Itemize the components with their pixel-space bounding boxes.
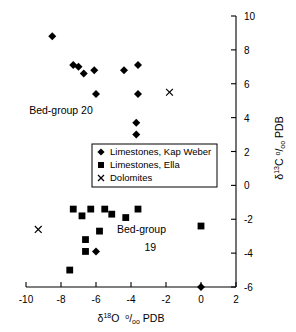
- legend-item[interactable]: Limestones, Kap Weber: [97, 146, 211, 157]
- marker-square: [101, 206, 108, 213]
- x-tick-label: 0: [198, 294, 204, 305]
- marker-square: [98, 162, 104, 168]
- chart-canvas: -10-8-6-4-202 -6-4-20246810 δ18O o/oo PD…: [0, 0, 296, 332]
- x-tick-label: -10: [19, 294, 34, 305]
- series-square: [66, 206, 204, 274]
- x-axis: -10-8-6-4-202: [19, 282, 239, 305]
- y-axis-ticks: [231, 16, 236, 287]
- y-tick-label: 8: [244, 45, 250, 56]
- marker-diamond: [132, 119, 140, 127]
- scatter-chart: -10-8-6-4-202 -6-4-20246810 δ18O o/oo PD…: [0, 0, 296, 332]
- marker-diamond: [80, 70, 88, 78]
- marker-diamond: [92, 90, 100, 98]
- marker-x: [35, 226, 42, 233]
- legend-item-label: Dolomites: [110, 172, 152, 183]
- x-tick-label: -8: [57, 294, 66, 305]
- marker-square: [96, 228, 103, 235]
- annotation-label: 19: [144, 241, 156, 253]
- marker-diamond: [134, 90, 142, 98]
- marker-diamond: [197, 283, 205, 291]
- marker-diamond: [90, 66, 98, 74]
- marker-square: [87, 206, 94, 213]
- x-tick-label: -4: [127, 294, 136, 305]
- marker-diamond: [132, 131, 140, 139]
- legend-item[interactable]: Limestones, Ella: [98, 159, 180, 170]
- annotation-label: Bed-group 20: [29, 104, 93, 116]
- y-axis-tick-labels: -6-4-20246810: [244, 11, 256, 293]
- marker-square: [198, 223, 205, 230]
- y-tick-label: 4: [244, 113, 250, 124]
- marker-diamond: [134, 61, 142, 69]
- x-tick-label: 2: [233, 294, 239, 305]
- marker-diamond: [48, 32, 56, 40]
- y-tick-label: -6: [244, 282, 253, 293]
- y-tick-label: -2: [244, 214, 253, 225]
- legend-item-label: Limestones, Ella: [110, 159, 180, 170]
- marker-diamond: [120, 66, 128, 74]
- marker-square: [122, 214, 129, 221]
- x-axis-ticks: [26, 282, 236, 287]
- marker-diamond: [92, 247, 100, 255]
- marker-square: [79, 212, 86, 219]
- y-tick-label: -4: [244, 248, 253, 259]
- marker-x: [166, 89, 173, 96]
- marker-square: [66, 267, 73, 274]
- y-tick-label: 10: [244, 11, 256, 22]
- legend-item-label: Limestones, Kap Weber: [110, 146, 211, 157]
- marker-square: [70, 206, 77, 213]
- marker-square: [82, 236, 89, 243]
- marker-square: [135, 206, 142, 213]
- x-tick-label: -6: [92, 294, 101, 305]
- x-axis-title: δ18O o/oo PDB: [98, 312, 165, 325]
- y-axis-title: δ13C o/oo PDB: [273, 116, 286, 179]
- marker-square: [108, 211, 115, 218]
- legend: Limestones, Kap WeberLimestones, EllaDol…: [92, 144, 217, 187]
- y-axis: -6-4-20246810: [231, 11, 256, 293]
- marker-square: [82, 248, 89, 255]
- y-tick-label: 2: [244, 147, 250, 158]
- annotation-label: Bed-group: [117, 223, 166, 235]
- y-tick-label: 0: [244, 180, 250, 191]
- y-tick-label: 6: [244, 79, 250, 90]
- x-tick-label: -2: [162, 294, 171, 305]
- x-axis-tick-labels: -10-8-6-4-202: [19, 294, 239, 305]
